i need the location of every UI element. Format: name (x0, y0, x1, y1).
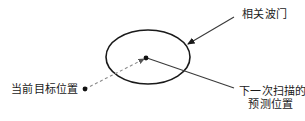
correlation-gate-arrow (188, 17, 234, 44)
predicted-position-dot (144, 56, 149, 61)
current-target-position-label: 当前目标位置 (11, 83, 79, 96)
correlation-gate-label: 相关波门 (242, 8, 287, 21)
current-target-position-dot (83, 87, 88, 92)
predicted-position-label-line2: 预测位置 (239, 98, 303, 111)
predicted-position-label: 下一次扫描的 预测位置 (239, 85, 303, 111)
predicted-position-label-line1: 下一次扫描的 (239, 85, 305, 98)
radar-correlation-gate-diagram: 相关波门 当前目标位置 下一次扫描的 预测位置 (0, 0, 305, 121)
